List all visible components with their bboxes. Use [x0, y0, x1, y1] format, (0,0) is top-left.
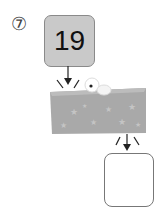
- svg-text:★: ★: [82, 103, 87, 109]
- input-arrow-icon: [57, 66, 79, 88]
- machine-box: ★ ★ ★ ★ ★ ★ ★ ★: [50, 88, 146, 134]
- svg-text:★: ★: [90, 118, 97, 127]
- svg-text:★: ★: [135, 121, 141, 128]
- answer-box[interactable]: [104, 153, 154, 207]
- output-arrow-icon: [116, 134, 139, 151]
- svg-text:★: ★: [128, 102, 136, 112]
- svg-text:★: ★: [70, 107, 78, 117]
- svg-text:★: ★: [105, 105, 112, 114]
- svg-text:★: ★: [118, 117, 126, 127]
- svg-text:★: ★: [60, 121, 67, 130]
